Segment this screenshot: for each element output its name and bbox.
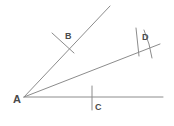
geometry-diagram: A B C D <box>0 0 174 126</box>
point-label-a: A <box>13 93 21 105</box>
point-label-d: D <box>142 32 149 42</box>
point-label-b: B <box>65 31 72 41</box>
geometry-canvas: A B C D <box>0 0 174 126</box>
ray-upper <box>24 6 110 97</box>
point-label-c: C <box>95 102 102 112</box>
tick-mark-d <box>136 28 139 56</box>
